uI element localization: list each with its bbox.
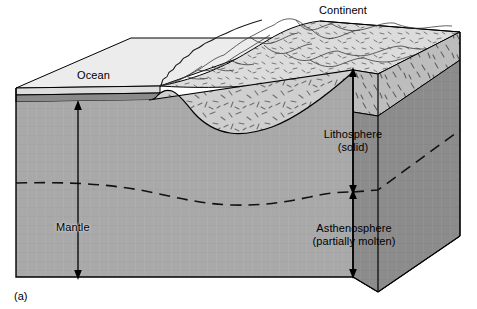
label-mantle: Mantle	[56, 221, 90, 234]
label-continent: Continent	[319, 4, 367, 17]
figure-caption: (a)	[14, 290, 27, 302]
block-diagram: Continent Ocean Mantle Lithosphere (soli…	[0, 0, 477, 309]
label-asthenosphere: Asthenosphere (partially molten)	[292, 222, 416, 247]
label-lithosphere-line2: (solid)	[305, 141, 401, 154]
label-lithosphere: Lithosphere (solid)	[305, 128, 401, 153]
block-diagram-svg	[0, 0, 477, 309]
label-lithosphere-line1: Lithosphere	[305, 128, 401, 141]
label-asthenosphere-line2: (partially molten)	[292, 235, 416, 248]
label-ocean: Ocean	[77, 69, 110, 82]
label-asthenosphere-line1: Asthenosphere	[292, 222, 416, 235]
